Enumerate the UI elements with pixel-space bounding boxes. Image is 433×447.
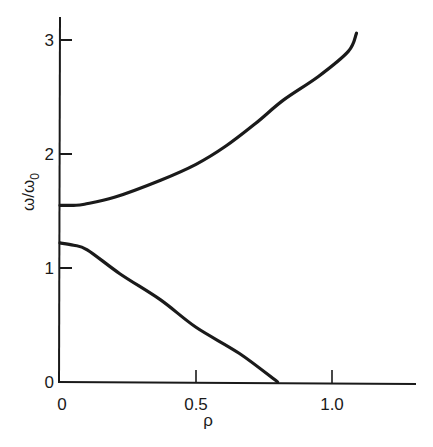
svg-text:ω/ω0: ω/ω0: [19, 173, 42, 211]
x-axis-line: [58, 382, 416, 384]
x-axis-label: ρ: [203, 411, 213, 430]
x-ticks: 00.51.0: [57, 370, 344, 414]
y-axis-line: [59, 17, 60, 383]
x-tick-label: 1.0: [320, 395, 344, 414]
lower-branch-curve: [60, 243, 278, 382]
y-tick-label: 3: [45, 31, 54, 50]
y-axis-label: ω/ω0: [19, 173, 42, 211]
x-tick-label: 0: [57, 395, 66, 414]
y-axis-label-subscript: 0: [28, 173, 42, 180]
upper-branch-curve: [60, 33, 357, 205]
y-tick-label: 0: [45, 373, 54, 392]
plot-series: [60, 33, 357, 382]
y-tick-label: 1: [45, 259, 54, 278]
y-axis-label-main: ω/ω: [19, 180, 38, 211]
y-tick-label: 2: [45, 145, 54, 164]
chart: 0123 00.51.0 ρ ω/ω0: [0, 0, 433, 447]
